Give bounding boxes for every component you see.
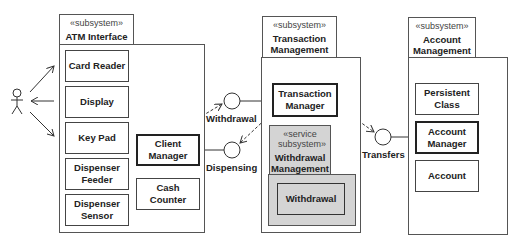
stereotype-label: «subsystem» — [409, 21, 475, 31]
account-subsystem-tab: «subsystem» Account Management — [408, 17, 476, 58]
service-subsystem-tab: «service subsystem» Withdrawal Managemen… — [269, 125, 331, 175]
component-dispenser-feeder[interactable]: Dispenser Feeder — [65, 158, 129, 190]
component-key-pad[interactable]: Key Pad — [65, 122, 129, 154]
atm-subsystem-tab: «subsystem» ATM Interface — [59, 14, 134, 45]
stereotype-label: «subsystem» — [263, 20, 336, 30]
component-client-manager[interactable]: Client Manager — [136, 134, 200, 166]
dispensing-interface-icon — [224, 142, 240, 158]
withdrawal-interface-icon — [224, 93, 240, 109]
transfers-interface-label: Transfers — [362, 149, 405, 160]
dispensing-interface-label: Dispensing — [206, 162, 257, 173]
subsystem-title: Transaction Management — [263, 33, 336, 55]
component-display[interactable]: Display — [65, 86, 129, 118]
transaction-subsystem-tab: «subsystem» Transaction Management — [262, 16, 337, 58]
component-withdrawal[interactable]: Withdrawal — [277, 183, 345, 215]
stereotype-label: «service subsystem» — [270, 129, 330, 149]
subsystem-title: Account Management — [409, 34, 475, 56]
stereotype-label: «subsystem» — [60, 18, 133, 28]
component-cash-counter[interactable]: Cash Counter — [136, 178, 200, 210]
subsystem-title: Withdrawal Management — [270, 152, 330, 174]
component-account-manager[interactable]: Account Manager — [415, 121, 479, 154]
component-transaction-manager[interactable]: Transaction Manager — [272, 83, 338, 117]
subsystem-title: ATM Interface — [60, 31, 133, 42]
component-card-reader[interactable]: Card Reader — [65, 50, 129, 82]
actor-icon — [11, 89, 23, 114]
withdrawal-interface-label: Withdrawal — [206, 113, 257, 124]
transfers-interface-icon — [375, 129, 391, 145]
component-account[interactable]: Account — [415, 160, 479, 192]
component-dispenser-sensor[interactable]: Dispenser Sensor — [65, 194, 129, 226]
component-persistent-class[interactable]: Persistent Class — [415, 83, 479, 115]
